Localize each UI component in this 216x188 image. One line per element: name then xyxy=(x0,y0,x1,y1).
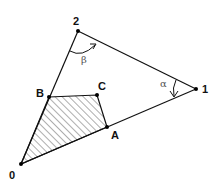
point-c xyxy=(95,93,99,97)
point-1 xyxy=(194,87,198,91)
point-0 xyxy=(19,162,23,166)
label-1: 1 xyxy=(202,84,208,95)
beta-arrow-arc xyxy=(70,45,95,53)
diagram-svg xyxy=(0,0,216,188)
point-2 xyxy=(76,29,80,33)
alpha-arrow-arc xyxy=(173,80,176,96)
label-alpha: α xyxy=(160,79,167,89)
point-b xyxy=(47,95,51,99)
label-c: C xyxy=(98,81,106,92)
label-0: 0 xyxy=(9,170,15,181)
point-a xyxy=(105,125,109,129)
shaded-quadrilateral xyxy=(21,95,107,164)
label-b: B xyxy=(36,88,44,99)
diagram-canvas: 0 1 2 A B C β α xyxy=(0,0,216,188)
edge-2-1 xyxy=(78,31,196,89)
label-2: 2 xyxy=(73,16,79,27)
label-beta: β xyxy=(81,55,87,65)
label-a: A xyxy=(111,130,119,141)
